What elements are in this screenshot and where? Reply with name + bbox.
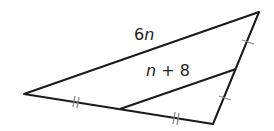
midsegment-label: n + 8 [146, 61, 190, 80]
long-side-label: 6n [134, 25, 154, 44]
triangle-diagram: 6n n + 8 [0, 0, 274, 131]
